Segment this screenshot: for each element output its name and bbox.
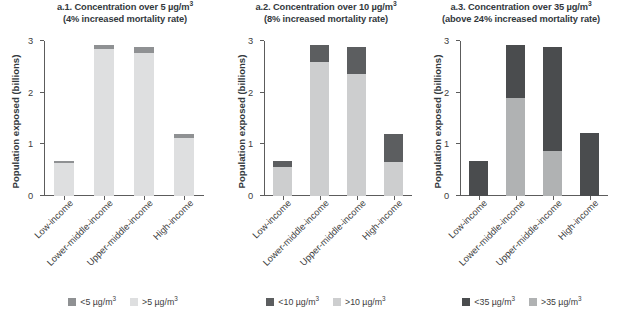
- bar-high-income[interactable]: [580, 133, 599, 196]
- legend-label: <5 µg/m3: [80, 297, 116, 307]
- panel-a2-title: a.2. Concentration over 10 µg/m3 (8% inc…: [228, 1, 424, 25]
- bar-segment: [54, 163, 75, 196]
- bar-segment: [310, 62, 329, 196]
- legend-item[interactable]: <10 µg/m3: [266, 297, 319, 307]
- bar-segment: [94, 49, 115, 196]
- legend-label-superscript: 3: [511, 295, 515, 302]
- panel-a1-legend: <5 µg/m3>5 µg/m3: [0, 297, 228, 307]
- y-tick-label: 2: [444, 88, 454, 98]
- legend-item[interactable]: >35 µg/m3: [529, 297, 582, 307]
- bar-segment: [347, 74, 366, 196]
- y-tick-label: 2: [248, 88, 258, 98]
- bar-segment: [580, 133, 599, 196]
- panel-a1-plot-area: 0123: [44, 41, 204, 196]
- y-tick-label: 3: [248, 36, 258, 46]
- panel-a2-title-line2: (8% increased mortality rate): [228, 13, 424, 25]
- legend-label: >35 µg/m3: [541, 297, 582, 307]
- y-tick-label: 1: [28, 139, 38, 149]
- legend-item[interactable]: >10 µg/m3: [333, 297, 386, 307]
- y-tick-label: 1: [248, 139, 258, 149]
- panel-a3-plot-area: 0123: [460, 41, 608, 196]
- bar-low-income[interactable]: [273, 161, 292, 196]
- panel-a3-legend: <35 µg/m3>35 µg/m3: [424, 297, 620, 307]
- bar-lower-middle-income[interactable]: [506, 45, 525, 196]
- bar-lower-middle-income[interactable]: [310, 45, 329, 196]
- panel-a2-title-superscript: 3: [393, 0, 397, 7]
- y-tick-label: 1: [444, 139, 454, 149]
- legend-item[interactable]: <35 µg/m3: [462, 297, 515, 307]
- bar-segment: [469, 161, 488, 196]
- y-tick-label: 3: [28, 36, 38, 46]
- legend-label-superscript: 3: [578, 295, 582, 302]
- panel-a3-title-superscript: 3: [588, 0, 592, 7]
- panel-a3-x-labels: Low-incomeLower-middle-incomeUpper-middl…: [424, 196, 620, 313]
- panel-a2-title-line1: a.2. Concentration over 10 µg/m: [255, 2, 393, 12]
- legend-label: >10 µg/m3: [345, 297, 386, 307]
- legend-label: <10 µg/m3: [278, 297, 319, 307]
- bar-segment: [543, 47, 562, 151]
- x-axis-label-high-income: High-income: [151, 198, 195, 242]
- panel-a2-legend: <10 µg/m3>10 µg/m3: [228, 297, 424, 307]
- bar-segment: [347, 47, 366, 74]
- panel-a3-bars: [460, 41, 608, 196]
- panel-a2-plot-area: 0123: [264, 41, 412, 196]
- x-axis-label-upper-middle-income: Upper-middle-income: [298, 198, 368, 268]
- bar-lower-middle-income[interactable]: [94, 45, 115, 196]
- legend-swatch-icon: [529, 298, 537, 306]
- bar-high-income[interactable]: [174, 134, 195, 197]
- x-axis-label-upper-middle-income: Upper-middle-income: [494, 198, 564, 268]
- figure-container: a.1. Concentration over 5 µg/m3 (4% incr…: [0, 0, 620, 313]
- legend-label: <35 µg/m3: [474, 297, 515, 307]
- panel-a1-y-axis-title: Population exposed (billions): [10, 42, 21, 202]
- bar-segment: [506, 98, 525, 196]
- bar-low-income[interactable]: [469, 161, 488, 196]
- bar-upper-middle-income[interactable]: [134, 47, 155, 196]
- bar-low-income[interactable]: [54, 161, 75, 196]
- bar-segment: [273, 167, 292, 196]
- x-axis-label-lower-middle-income: Lower-middle-income: [45, 198, 115, 268]
- y-tick-label: 3: [444, 36, 454, 46]
- legend-item[interactable]: >5 µg/m3: [130, 297, 178, 307]
- legend-swatch-icon: [130, 298, 138, 306]
- legend-swatch-icon: [266, 298, 274, 306]
- panel-a2-x-labels: Low-incomeLower-middle-incomeUpper-middl…: [228, 196, 424, 313]
- bar-upper-middle-income[interactable]: [543, 47, 562, 196]
- bar-segment: [543, 151, 562, 196]
- bar-segment: [384, 134, 403, 163]
- bar-segment: [174, 138, 195, 196]
- legend-item[interactable]: <5 µg/m3: [68, 297, 116, 307]
- legend-swatch-icon: [68, 298, 76, 306]
- panel-a2: a.2. Concentration over 10 µg/m3 (8% inc…: [228, 0, 424, 313]
- panel-a2-bars: [264, 41, 412, 196]
- panel-a3-y-axis-title: Population exposed (billions): [432, 42, 443, 202]
- panel-a1-title-line1: a.1. Concentration over 5 µg/m: [57, 2, 190, 12]
- legend-swatch-icon: [333, 298, 341, 306]
- bar-segment: [310, 45, 329, 62]
- legend-label-superscript: 3: [382, 295, 386, 302]
- legend-label-superscript: 3: [112, 295, 116, 302]
- panel-a1-title: a.1. Concentration over 5 µg/m3 (4% incr…: [0, 1, 228, 25]
- y-tick-label: 2: [28, 88, 38, 98]
- bar-segment: [506, 45, 525, 98]
- x-axis-label-lower-middle-income: Lower-middle-income: [457, 198, 527, 268]
- x-axis-label-lower-middle-income: Lower-middle-income: [261, 198, 331, 268]
- panel-a3-title-line1: a.3. Concentration over 35 µg/m: [450, 2, 588, 12]
- panel-a1-title-superscript: 3: [189, 0, 193, 7]
- panel-a2-y-axis-title: Population exposed (billions): [236, 42, 247, 202]
- x-axis-label-low-income: Low-income: [33, 198, 76, 241]
- bar-segment: [384, 162, 403, 196]
- panel-a3-title-line2: (above 24% increased mortality rate): [418, 13, 620, 25]
- legend-label-superscript: 3: [174, 295, 178, 302]
- panel-a3: a.3. Concentration over 35 µg/m3 (above …: [424, 0, 620, 313]
- panel-a1-title-line2: (4% increased mortality rate): [22, 13, 228, 25]
- legend-label-superscript: 3: [315, 295, 319, 302]
- legend-label: >5 µg/m3: [142, 297, 178, 307]
- panel-a3-title: a.3. Concentration over 35 µg/m3 (above …: [418, 1, 620, 25]
- bar-high-income[interactable]: [384, 134, 403, 197]
- legend-swatch-icon: [462, 298, 470, 306]
- panel-a1-bars: [44, 41, 204, 196]
- bar-segment: [134, 53, 155, 196]
- bar-upper-middle-income[interactable]: [347, 47, 366, 196]
- panel-a1: a.1. Concentration over 5 µg/m3 (4% incr…: [0, 0, 228, 313]
